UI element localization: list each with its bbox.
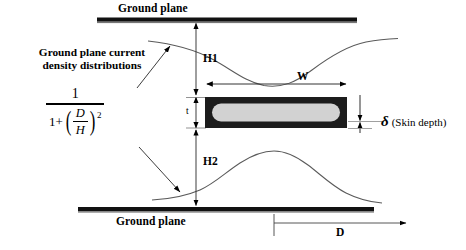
caption-line-1: Ground plane current bbox=[8, 46, 176, 59]
h2-label: H2 bbox=[203, 155, 218, 168]
w-label: W bbox=[297, 70, 309, 83]
inner-numerator: D bbox=[73, 106, 88, 121]
current-density-formula: 1 1+ ( D H ) 2 bbox=[46, 86, 104, 138]
dimension-skin-depth bbox=[348, 95, 382, 133]
right-paren: ) bbox=[90, 112, 96, 131]
caption-line-2: density distributions bbox=[8, 59, 176, 72]
formula-one-plus: 1+ bbox=[49, 114, 64, 130]
conductor-core bbox=[212, 104, 340, 122]
h1-label: H1 bbox=[203, 52, 218, 65]
t-label: t bbox=[186, 106, 189, 117]
leader-arrow-to-bottom-curve bbox=[139, 147, 180, 192]
formula-denominator: 1+ ( D H ) 2 bbox=[46, 105, 104, 138]
dimension-t bbox=[186, 98, 206, 129]
d-label: D bbox=[336, 226, 344, 239]
current-density-curve-top bbox=[148, 38, 398, 86]
formula-numerator: 1 bbox=[66, 86, 85, 103]
current-density-caption: Ground plane current density distributio… bbox=[8, 46, 176, 73]
inner-fraction: D H bbox=[73, 106, 88, 138]
ground-plane-bottom-bar bbox=[78, 207, 374, 213]
inner-denominator: H bbox=[73, 123, 88, 138]
skin-depth-text: (Skin depth) bbox=[392, 116, 447, 128]
formula-exponent: 2 bbox=[97, 110, 102, 120]
skin-depth-label: δ(Skin depth) bbox=[381, 113, 446, 130]
ground-plane-top-bar bbox=[97, 18, 357, 24]
delta-symbol: δ bbox=[381, 113, 389, 129]
conductor-cross-section bbox=[205, 97, 347, 128]
outer-fraction: 1 1+ ( D H ) 2 bbox=[46, 86, 104, 138]
diagram-canvas: Ground plane Ground plane Ground plane c… bbox=[0, 0, 466, 250]
left-paren: ( bbox=[66, 112, 72, 131]
ground-plane-bottom-label: Ground plane bbox=[116, 215, 186, 228]
ground-plane-top-label: Ground plane bbox=[118, 2, 188, 15]
current-density-curve-bottom bbox=[152, 151, 382, 203]
